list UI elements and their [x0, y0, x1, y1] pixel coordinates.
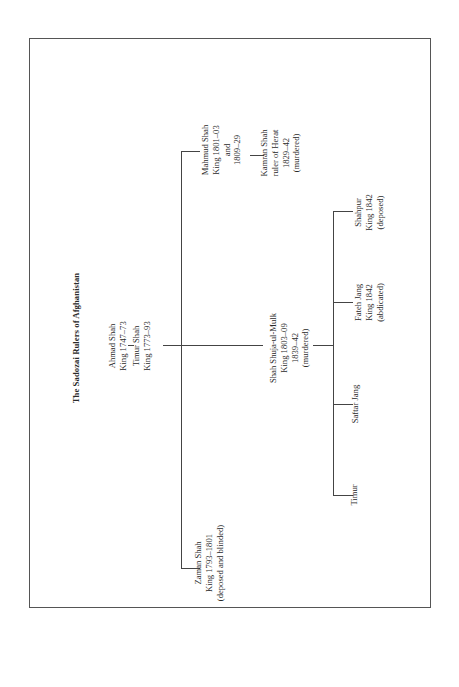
shuja-to-sons-connector	[313, 345, 333, 346]
ahmad-shah-reign: King 1747–73	[118, 310, 129, 382]
shuja-reign2: 1839–42	[290, 303, 301, 393]
shuja-note: (murdered)	[300, 303, 311, 393]
kamran-title: ruler of Herat	[270, 115, 281, 191]
kamran-reign: 1829–42	[281, 115, 292, 191]
sons-of-shuja-spine	[333, 211, 334, 496]
mahmud-branch	[181, 151, 200, 152]
shahpur-note: (deposed)	[374, 186, 385, 240]
zaman-note: (deposed and blinded)	[215, 518, 226, 608]
timur-shah-reign: King 1773–93	[142, 310, 153, 382]
node-timur-shah: Timur Shah King 1773–93	[131, 310, 179, 382]
sons-of-timur-spine	[181, 151, 182, 569]
zaman-reign: King 1793–1801	[204, 518, 215, 608]
mahmud-reign2: 1809–29	[232, 115, 243, 185]
fateh-jang-name: Fateh Jang	[353, 274, 364, 332]
timur-to-sons-connector	[163, 345, 263, 346]
mahmud-name: Mahmud Shah	[200, 115, 211, 185]
shuja-name: Shah Shuja-ul-Mulk	[268, 303, 279, 393]
node-fateh-jang: Fateh Jang King 1842 (abdicated)	[353, 274, 386, 332]
kamran-name: Kamran Shah	[259, 115, 270, 191]
fateh-jang-branch	[333, 302, 353, 303]
node-mahmud-shah: Mahmud Shah King 1801–03 and 1809–29	[200, 115, 244, 185]
shahpur-branch	[333, 211, 353, 212]
node-shahpur: Shahpur King 1842 (deposed)	[353, 186, 386, 240]
shuja-reign: King 1803–09	[279, 303, 290, 393]
mahmud-reign: King 1801–03	[211, 115, 222, 185]
mahmud-and: and	[222, 115, 233, 185]
shahpur-name: Shahpur	[353, 186, 364, 240]
node-shah-shuja: Shah Shuja-ul-Mulk King 1803–09 1839–42 …	[268, 303, 312, 393]
saftar-jang-name: Saftar Jang	[350, 378, 361, 430]
diagram-title: The Sadozai Rulers of Afghanistan	[71, 253, 83, 423]
ahmad-shah-name: Ahmad Shah	[107, 310, 118, 382]
shahpur-reign: King 1842	[363, 186, 374, 240]
node-zaman-shah: Zaman Shah King 1793–1801 (deposed and b…	[193, 518, 229, 608]
timur-jr-name: Timur	[349, 475, 360, 515]
node-saftar-jang: Saftar Jang	[350, 378, 362, 430]
zaman-name: Zaman Shah	[193, 518, 204, 608]
node-timur-jr: Timur	[349, 475, 361, 515]
node-kamran-shah: Kamran Shah ruler of Herat 1829–42 (murd…	[259, 115, 303, 191]
fateh-jang-reign: King 1842	[363, 274, 374, 332]
kamran-note: (murdered)	[291, 115, 302, 191]
timur-shah-name: Timur Shah	[131, 310, 142, 382]
fateh-jang-note: (abdicated)	[374, 274, 385, 332]
